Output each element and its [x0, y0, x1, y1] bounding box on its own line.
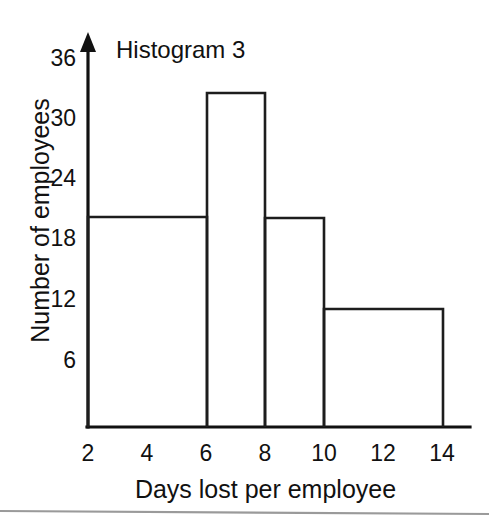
chart-title: Histogram 3 [116, 38, 245, 62]
x-tick-label-12: 12 [370, 442, 396, 465]
up-arrow-icon [80, 32, 96, 52]
x-tick-label-8: 8 [259, 442, 272, 465]
x-tick-label-2: 2 [82, 442, 95, 465]
horizontal-divider [0, 511, 489, 514]
bar-6-8 [207, 93, 265, 427]
x-tick-label-10: 10 [311, 442, 337, 465]
histogram-plot-svg [0, 0, 489, 525]
histogram-figure: Histogram 3 36 30 24 18 12 6 2 4 6 8 10 … [0, 0, 489, 525]
bars-group [88, 93, 443, 427]
bar-2-6 [88, 217, 207, 427]
x-tick-label-4: 4 [141, 442, 154, 465]
y-axis-title: Number of employees [28, 96, 53, 346]
y-tick-label-36: 36 [28, 47, 76, 70]
x-tick-label-14: 14 [429, 442, 455, 465]
x-tick-label-6: 6 [200, 442, 213, 465]
x-axis-title: Days lost per employee [0, 477, 489, 502]
bar-8-10 [265, 218, 324, 427]
bar-10-14 [324, 309, 443, 427]
y-tick-label-6: 6 [28, 349, 76, 372]
